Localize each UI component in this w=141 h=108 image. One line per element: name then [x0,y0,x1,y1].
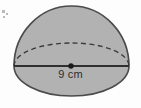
scan-speck-icon [2,10,5,13]
scan-speck-icon [3,16,5,18]
hemisphere-drawing [0,0,141,108]
geometry-figure-hemisphere: 9 cm [0,0,141,108]
hemisphere-body-shape [14,6,129,96]
diameter-label: 9 cm [0,68,141,80]
scan-speck-icon [6,13,8,15]
